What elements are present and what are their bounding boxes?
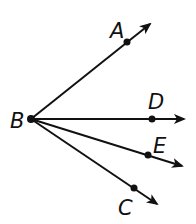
ray-bd: D: [31, 90, 184, 123]
label-a: A: [108, 19, 124, 43]
ray-bc-line: [31, 119, 157, 204]
point-d: [149, 116, 156, 123]
ray-ba-line: [31, 24, 150, 119]
label-d: D: [148, 90, 164, 114]
vertex-b: B: [10, 109, 35, 133]
label-b: B: [10, 109, 24, 133]
angle-rays-diagram: A D E C B: [0, 0, 196, 224]
point-a: [124, 39, 131, 46]
point-c: [131, 185, 138, 192]
label-e: E: [153, 134, 167, 158]
label-c: C: [118, 196, 133, 220]
ray-ba: A: [31, 19, 150, 119]
ray-be: E: [31, 119, 182, 166]
point-e: [145, 152, 152, 159]
point-b: [27, 115, 35, 123]
ray-bc: C: [31, 119, 157, 220]
